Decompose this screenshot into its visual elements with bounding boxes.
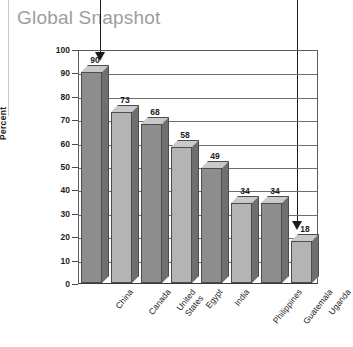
y-tick-label: 40 (40, 185, 70, 195)
y-tick-label: 30 (40, 209, 70, 219)
gridline (79, 74, 317, 75)
y-tick-label: 70 (40, 115, 70, 125)
bar-side-face (132, 105, 139, 283)
y-tick-label: 0 (40, 279, 70, 289)
y-tick-mark (72, 284, 78, 285)
bar-side-face (252, 196, 259, 283)
x-category-label: Egypt (203, 287, 224, 310)
y-tick-mark (72, 237, 78, 238)
bar-front-face (111, 112, 132, 283)
y-tick-mark (72, 50, 78, 51)
bar-side-face (312, 234, 319, 283)
y-tick-label: 80 (40, 92, 70, 102)
y-tick-mark (72, 73, 78, 74)
bar-value-label: 73 (111, 95, 139, 105)
y-axis-tick-labels: 1009080706050403020100 (38, 50, 70, 284)
bar-value-label: 34 (261, 186, 289, 196)
bar-front-face (291, 241, 312, 283)
bar-value-label: 18 (291, 224, 319, 234)
y-tick-mark (72, 261, 78, 262)
bar-side-face (192, 140, 199, 283)
bar-value-label: 58 (171, 130, 199, 140)
x-category-label: China (114, 287, 136, 311)
y-tick-label: 10 (40, 256, 70, 266)
bar-front-face (141, 124, 162, 283)
y-tick-mark (72, 167, 78, 168)
bar-egypt (171, 147, 192, 283)
bar-india (201, 168, 222, 283)
bar-side-face (162, 117, 169, 283)
bar-front-face (201, 168, 222, 283)
y-tick-label: 90 (40, 68, 70, 78)
bar-front-face (231, 203, 252, 283)
y-tick-label: 100 (40, 45, 70, 55)
x-category-label: UnitedStates (174, 287, 205, 319)
y-tick-mark (72, 97, 78, 98)
bar-front-face (261, 203, 282, 283)
bar-front-face (171, 147, 192, 283)
bar-united-states (141, 124, 162, 283)
y-tick-label: 50 (40, 162, 70, 172)
bar-canada (111, 112, 132, 283)
x-category-label: Canada (146, 287, 172, 317)
y-tick-mark (72, 120, 78, 121)
bar-side-face (222, 161, 229, 283)
bar-front-face (81, 72, 102, 283)
y-tick-mark (72, 214, 78, 215)
x-category-label: Philippines (271, 287, 304, 326)
bar-uganda (291, 241, 312, 283)
y-tick-mark (72, 144, 78, 145)
bar-guatemala (261, 203, 282, 283)
bar-china (81, 72, 102, 283)
plot-area (78, 50, 318, 284)
bar-philippines (231, 203, 252, 283)
bar-value-label: 34 (231, 186, 259, 196)
page-title: Global Snapshot (17, 7, 161, 29)
bar-side-face (102, 65, 109, 283)
bar-value-label: 90 (81, 55, 109, 65)
bar-value-label: 68 (141, 107, 169, 117)
bar-value-label: 49 (201, 151, 229, 161)
left-margin-rule (8, 0, 9, 116)
y-tick-mark (72, 190, 78, 191)
y-tick-label: 60 (40, 139, 70, 149)
bar-side-face (282, 196, 289, 283)
y-axis-title: Percent (0, 107, 8, 140)
arrow-shaft (100, 0, 101, 53)
y-tick-label: 20 (40, 232, 70, 242)
x-category-label: India (232, 287, 251, 308)
